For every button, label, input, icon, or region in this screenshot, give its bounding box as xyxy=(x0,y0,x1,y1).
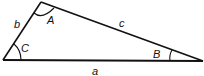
triangle-diagram: b A c C B a xyxy=(0,0,204,76)
angle-label-c: C xyxy=(21,42,29,54)
side-label-b: b xyxy=(14,18,20,30)
angle-label-b: B xyxy=(153,48,160,60)
side-label-a: a xyxy=(92,65,98,76)
angle-arc-c xyxy=(14,44,21,60)
side-a xyxy=(3,60,203,61)
side-label-c: c xyxy=(119,17,125,29)
side-c xyxy=(41,2,203,61)
angle-arc-b xyxy=(170,50,172,61)
angle-label-a: A xyxy=(46,14,54,26)
